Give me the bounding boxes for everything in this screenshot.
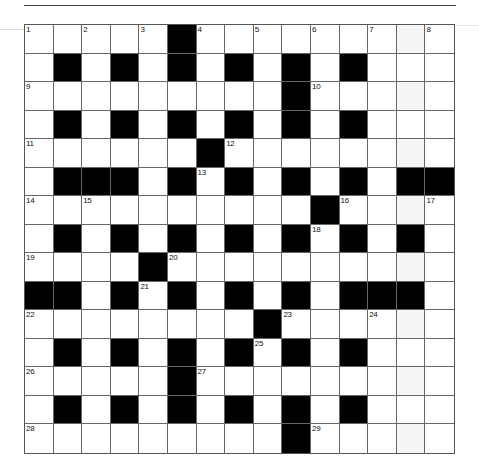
answer-cell[interactable]	[25, 225, 54, 254]
answer-cell[interactable]	[397, 310, 426, 339]
answer-cell[interactable]	[82, 339, 111, 368]
answer-cell[interactable]	[397, 196, 426, 225]
answer-cell[interactable]	[254, 82, 283, 111]
answer-cell[interactable]	[368, 111, 397, 140]
answer-cell[interactable]	[282, 139, 311, 168]
answer-cell[interactable]: 4	[197, 25, 226, 54]
answer-cell[interactable]	[111, 25, 140, 54]
answer-cell[interactable]: 5	[254, 25, 283, 54]
answer-cell[interactable]	[254, 367, 283, 396]
answer-cell[interactable]	[425, 54, 454, 83]
answer-cell[interactable]	[25, 396, 54, 425]
answer-cell[interactable]	[254, 139, 283, 168]
answer-cell[interactable]	[340, 367, 369, 396]
answer-cell[interactable]	[425, 424, 454, 453]
answer-cell[interactable]: 24	[368, 310, 397, 339]
answer-cell[interactable]	[311, 396, 340, 425]
answer-cell[interactable]	[425, 282, 454, 311]
answer-cell[interactable]	[82, 111, 111, 140]
answer-cell[interactable]	[82, 367, 111, 396]
answer-cell[interactable]	[425, 111, 454, 140]
answer-cell[interactable]	[111, 139, 140, 168]
answer-cell[interactable]	[139, 111, 168, 140]
answer-cell[interactable]	[111, 367, 140, 396]
answer-cell[interactable]	[54, 310, 83, 339]
answer-cell[interactable]	[139, 54, 168, 83]
answer-cell[interactable]	[225, 367, 254, 396]
answer-cell[interactable]	[282, 25, 311, 54]
answer-cell[interactable]	[225, 424, 254, 453]
answer-cell[interactable]: 18	[311, 225, 340, 254]
answer-cell[interactable]: 13	[197, 168, 226, 197]
answer-cell[interactable]	[254, 424, 283, 453]
answer-cell[interactable]	[397, 424, 426, 453]
answer-cell[interactable]	[82, 282, 111, 311]
answer-cell[interactable]	[168, 196, 197, 225]
answer-cell[interactable]	[368, 367, 397, 396]
answer-cell[interactable]	[139, 168, 168, 197]
answer-cell[interactable]	[197, 282, 226, 311]
answer-cell[interactable]: 25	[254, 339, 283, 368]
answer-cell[interactable]: 10	[311, 82, 340, 111]
answer-cell[interactable]	[340, 25, 369, 54]
answer-cell[interactable]: 2	[82, 25, 111, 54]
answer-cell[interactable]	[254, 253, 283, 282]
answer-cell[interactable]	[197, 111, 226, 140]
answer-cell[interactable]	[168, 139, 197, 168]
answer-cell[interactable]	[139, 367, 168, 396]
answer-cell[interactable]	[425, 367, 454, 396]
answer-cell[interactable]: 26	[25, 367, 54, 396]
answer-cell[interactable]	[397, 54, 426, 83]
answer-cell[interactable]	[368, 396, 397, 425]
answer-cell[interactable]: 8	[425, 25, 454, 54]
answer-cell[interactable]	[54, 82, 83, 111]
answer-cell[interactable]	[225, 82, 254, 111]
answer-cell[interactable]	[340, 139, 369, 168]
answer-cell[interactable]	[425, 225, 454, 254]
answer-cell[interactable]	[111, 82, 140, 111]
answer-cell[interactable]	[282, 196, 311, 225]
answer-cell[interactable]	[368, 82, 397, 111]
answer-cell[interactable]	[197, 82, 226, 111]
answer-cell[interactable]	[368, 424, 397, 453]
answer-cell[interactable]	[25, 339, 54, 368]
answer-cell[interactable]	[311, 54, 340, 83]
answer-cell[interactable]	[425, 82, 454, 111]
answer-cell[interactable]	[54, 139, 83, 168]
answer-cell[interactable]	[282, 253, 311, 282]
answer-cell[interactable]: 28	[25, 424, 54, 453]
answer-cell[interactable]	[425, 310, 454, 339]
answer-cell[interactable]: 19	[25, 253, 54, 282]
answer-cell[interactable]	[54, 196, 83, 225]
answer-cell[interactable]	[82, 54, 111, 83]
answer-cell[interactable]	[368, 196, 397, 225]
answer-cell[interactable]	[139, 339, 168, 368]
answer-cell[interactable]	[82, 424, 111, 453]
answer-cell[interactable]: 14	[25, 196, 54, 225]
answer-cell[interactable]: 1	[25, 25, 54, 54]
answer-cell[interactable]: 9	[25, 82, 54, 111]
answer-cell[interactable]: 3	[139, 25, 168, 54]
answer-cell[interactable]	[111, 253, 140, 282]
answer-cell[interactable]	[425, 253, 454, 282]
answer-cell[interactable]	[397, 253, 426, 282]
answer-cell[interactable]	[397, 396, 426, 425]
answer-cell[interactable]	[139, 139, 168, 168]
answer-cell[interactable]	[168, 310, 197, 339]
answer-cell[interactable]	[254, 196, 283, 225]
answer-cell[interactable]	[397, 82, 426, 111]
answer-cell[interactable]: 17	[425, 196, 454, 225]
answer-cell[interactable]	[82, 310, 111, 339]
answer-cell[interactable]	[254, 111, 283, 140]
answer-cell[interactable]: 23	[282, 310, 311, 339]
answer-cell[interactable]	[197, 196, 226, 225]
answer-cell[interactable]	[54, 25, 83, 54]
answer-cell[interactable]	[82, 253, 111, 282]
answer-cell[interactable]: 11	[25, 139, 54, 168]
answer-cell[interactable]	[197, 54, 226, 83]
answer-cell[interactable]	[54, 367, 83, 396]
answer-cell[interactable]	[25, 111, 54, 140]
answer-cell[interactable]	[197, 225, 226, 254]
answer-cell[interactable]	[311, 111, 340, 140]
answer-cell[interactable]	[311, 367, 340, 396]
